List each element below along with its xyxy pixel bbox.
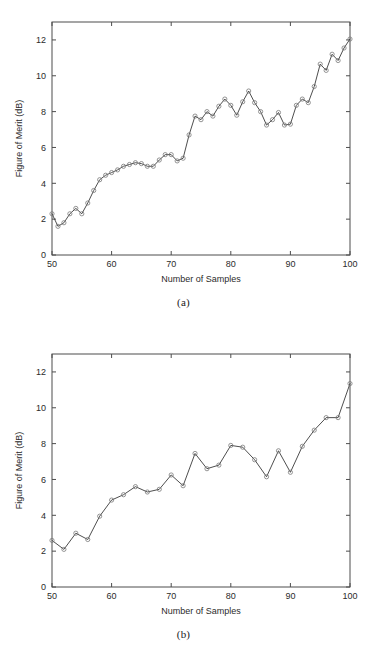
x-tick-label-b: 50 [47, 591, 57, 601]
line-chart-b: 5060708090100024681012Number of SamplesF… [0, 332, 367, 632]
x-tick-label-b: 60 [107, 591, 117, 601]
x-tick-label-a: 70 [166, 259, 176, 269]
figure-b: 5060708090100024681012Number of SamplesF… [0, 332, 367, 663]
y-tick-label-b: 10 [36, 403, 46, 413]
y-tick-label-b: 0 [41, 582, 46, 592]
y-tick-label-b: 12 [36, 367, 46, 377]
x-tick-label-b: 80 [226, 591, 236, 601]
plot-area-b: 5060708090100024681012Number of SamplesF… [0, 332, 367, 632]
x-tick-label-a: 80 [226, 259, 236, 269]
y-tick-label-b: 8 [41, 439, 46, 449]
y-tick-label-b: 6 [41, 475, 46, 485]
y-tick-label-b: 2 [41, 546, 46, 556]
plot-frame-a [52, 22, 350, 255]
y-tick-label-a: 12 [36, 35, 46, 45]
x-tick-label-a: 60 [107, 259, 117, 269]
x-tick-label-b: 70 [166, 591, 176, 601]
line-chart-a: 5060708090100024681012Number of SamplesF… [0, 0, 367, 300]
x-tick-label-b: 100 [342, 591, 357, 601]
y-tick-label-a: 8 [41, 107, 46, 117]
plot-frame-b [52, 354, 350, 587]
figure-a: 5060708090100024681012Number of SamplesF… [0, 0, 367, 332]
y-axis-title-a: Figure of Merit (dB) [14, 100, 24, 178]
x-tick-label-a: 50 [47, 259, 57, 269]
y-tick-label-a: 10 [36, 71, 46, 81]
figure-page: 5060708090100024681012Number of SamplesF… [0, 0, 367, 663]
x-tick-label-a: 100 [342, 259, 357, 269]
y-axis-title-b: Figure of Merit (dB) [14, 432, 24, 510]
y-tick-label-b: 4 [41, 511, 46, 521]
plot-area-a: 5060708090100024681012Number of SamplesF… [0, 0, 367, 300]
x-tick-label-b: 90 [285, 591, 295, 601]
x-axis-title-a: Number of Samples [161, 274, 241, 284]
y-tick-label-a: 4 [41, 179, 46, 189]
x-axis-title-b: Number of Samples [161, 606, 241, 616]
y-tick-label-a: 0 [41, 250, 46, 260]
y-tick-label-a: 2 [41, 214, 46, 224]
data-line-b [52, 384, 350, 550]
x-tick-label-a: 90 [285, 259, 295, 269]
data-line-a [52, 39, 350, 226]
y-tick-label-a: 6 [41, 143, 46, 153]
